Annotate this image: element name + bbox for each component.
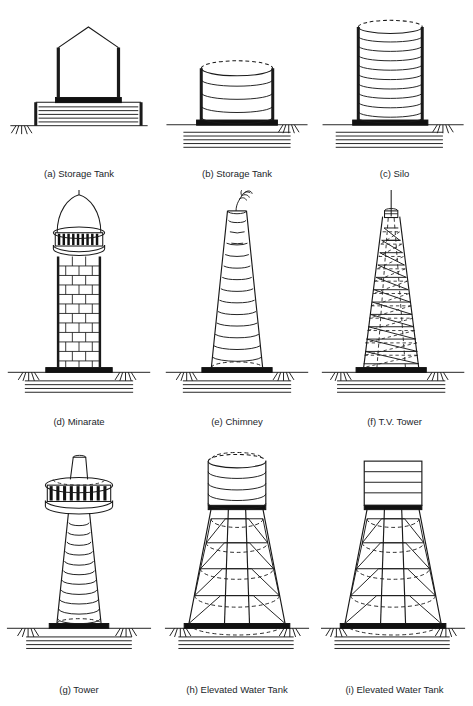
figure-drawing-i [316, 440, 473, 684]
figure-drawing-d [0, 190, 158, 416]
figure-drawing-c [316, 10, 473, 168]
figure-caption-c: (c) Silo [316, 168, 473, 190]
figure-drawing-b [158, 10, 316, 168]
figure-cell-h: (h) Elevated Water Tank [158, 440, 316, 706]
figure-drawing-a [0, 10, 158, 168]
figure-cell-g: (g) Tower [0, 440, 158, 706]
figure-caption-i: (i) Elevated Water Tank [316, 684, 473, 706]
masthead-text [0, 0, 473, 9]
figure-caption-f: (f) T.V. Tower [316, 416, 473, 440]
figure-drawing-f [316, 190, 473, 416]
figure-cell-a: (a) Storage Tank [0, 10, 158, 190]
figure-caption-h: (h) Elevated Water Tank [158, 684, 316, 706]
figure-plate: (a) Storage Tank [0, 0, 473, 706]
figure-cell-f: (f) T.V. Tower [316, 190, 473, 440]
figure-cell-i: (i) Elevated Water Tank [316, 440, 473, 706]
figure-caption-b: (b) Storage Tank [158, 168, 316, 190]
figure-drawing-h [158, 440, 316, 684]
figure-caption-g: (g) Tower [0, 684, 158, 706]
figure-cell-d: (d) Minarate [0, 190, 158, 440]
figure-cell-b: (b) Storage Tank [158, 10, 316, 190]
figure-caption-d: (d) Minarate [0, 416, 158, 440]
figure-grid: (a) Storage Tank [0, 10, 473, 706]
figure-caption-a: (a) Storage Tank [0, 168, 158, 190]
figure-drawing-g [0, 440, 158, 684]
figure-caption-e: (e) Chimney [158, 416, 316, 440]
figure-drawing-e [158, 190, 316, 416]
figure-cell-e: (e) Chimney [158, 190, 316, 440]
figure-cell-c: (c) Silo [316, 10, 473, 190]
